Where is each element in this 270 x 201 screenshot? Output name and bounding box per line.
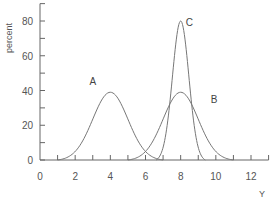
curve-label-a: A [89, 76, 96, 87]
x-tick-label: 2 [72, 171, 78, 182]
y-tick-label: 60 [22, 51, 34, 62]
curve-label-b: B [211, 94, 218, 105]
y-tick-label: 80 [22, 16, 34, 27]
curve-label-c: C [186, 17, 193, 28]
labels: ABC [89, 17, 217, 104]
chart: 024681012020406080 ABC percent Y [0, 0, 270, 201]
y-tick-label: 40 [22, 86, 34, 97]
y-tick-label: 0 [27, 155, 33, 166]
x-tick-label: 6 [143, 171, 149, 182]
y-tick-label: 20 [22, 120, 34, 131]
x-tick-label: 12 [245, 171, 257, 182]
x-tick-label: 4 [108, 171, 114, 182]
x-tick-label: 8 [178, 171, 184, 182]
curve-c [156, 21, 205, 160]
axes: 024681012020406080 [22, 4, 269, 182]
curves [58, 21, 234, 160]
y-axis-label: percent [4, 22, 14, 53]
x-tick-label: 10 [210, 171, 222, 182]
x-axis-label: Y [259, 189, 265, 199]
x-tick-label: 0 [37, 171, 43, 182]
